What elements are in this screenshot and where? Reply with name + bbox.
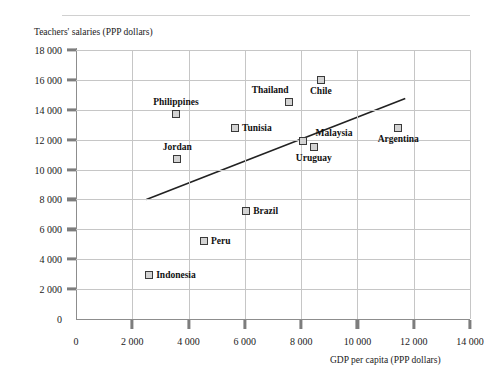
- data-point-marker[interactable]: [285, 98, 293, 106]
- gridline-horizontal: [76, 170, 470, 171]
- y-tick-label: 14 000: [35, 104, 63, 115]
- x-tick-label: 2 000: [121, 336, 144, 347]
- y-tick-label: 12 000: [35, 134, 63, 145]
- gridline-vertical: [245, 50, 246, 319]
- gridline-vertical: [470, 50, 471, 319]
- data-point-label: Jordan: [163, 142, 192, 152]
- x-tick-label: 0: [74, 336, 79, 347]
- gridline-horizontal: [76, 50, 470, 51]
- data-point-label: Thailand: [252, 85, 289, 95]
- y-tick-label: 10 000: [35, 164, 63, 175]
- data-point-label: Argentina: [378, 134, 419, 144]
- data-point-marker[interactable]: [173, 155, 181, 163]
- x-axis-title: GDP per capita (PPP dollars): [330, 355, 441, 365]
- gridline-horizontal: [76, 229, 470, 230]
- x-tick-label: 4 000: [177, 336, 200, 347]
- y-tick-label: 18 000: [35, 45, 63, 56]
- data-point-label: Tunisia: [242, 123, 272, 133]
- x-tick-label: 8 000: [290, 336, 313, 347]
- y-tick-mark: [67, 108, 76, 111]
- gridline-horizontal: [76, 110, 470, 111]
- y-tick-mark: [67, 78, 76, 81]
- x-tick-mark: [412, 320, 415, 329]
- data-point-label: Brazil: [253, 206, 278, 216]
- gridline-vertical: [357, 50, 358, 319]
- data-point-marker[interactable]: [394, 124, 402, 132]
- x-tick-label: 6 000: [234, 336, 257, 347]
- x-tick-mark: [131, 320, 134, 329]
- data-point-marker[interactable]: [172, 110, 180, 118]
- gridline-horizontal: [76, 259, 470, 260]
- y-tick-mark: [67, 288, 76, 291]
- y-tick-label: 6 000: [40, 224, 63, 235]
- x-tick-label: 10 000: [344, 336, 372, 347]
- data-point-label: Indonesia: [156, 270, 196, 280]
- y-tick-mark: [67, 48, 76, 51]
- data-point-label: Peru: [211, 236, 231, 246]
- top-caption: [150, 0, 390, 8]
- data-point-marker[interactable]: [299, 137, 307, 145]
- y-tick-label: 0: [57, 314, 62, 325]
- data-point-marker[interactable]: [145, 271, 153, 279]
- data-point-marker[interactable]: [231, 124, 239, 132]
- x-tick-mark: [356, 320, 359, 329]
- y-tick-label: 2 000: [40, 284, 63, 295]
- x-tick-mark: [468, 320, 471, 329]
- data-point-marker[interactable]: [200, 237, 208, 245]
- y-tick-mark: [67, 258, 76, 261]
- y-tick-mark: [67, 228, 76, 231]
- gridline-horizontal: [76, 80, 470, 81]
- data-point-label: Malaysia: [316, 128, 353, 138]
- gridline-vertical: [132, 50, 133, 319]
- data-point-label: Philippines: [153, 97, 198, 107]
- x-tick-label: 14 000: [456, 336, 484, 347]
- data-point-label: Uruguay: [296, 153, 332, 163]
- y-axis-title: Teachers' salaries (PPP dollars): [34, 27, 153, 37]
- gridline-vertical: [414, 50, 415, 319]
- y-tick-label: 16 000: [35, 74, 63, 85]
- gridline-horizontal: [76, 199, 470, 200]
- x-axis-line: [76, 319, 470, 320]
- data-point-marker[interactable]: [317, 76, 325, 84]
- header-divider: [62, 15, 470, 16]
- x-tick-mark: [187, 320, 190, 329]
- y-tick-mark: [67, 198, 76, 201]
- y-tick-mark: [67, 138, 76, 141]
- y-tick-label: 4 000: [40, 254, 63, 265]
- y-tick-mark: [67, 168, 76, 171]
- gridline-vertical: [301, 50, 302, 319]
- x-tick-mark: [243, 320, 246, 329]
- y-tick-label: 8 000: [40, 194, 63, 205]
- gridline-horizontal: [76, 289, 470, 290]
- x-tick-label: 12 000: [400, 336, 428, 347]
- data-point-marker[interactable]: [242, 207, 250, 215]
- data-point-marker[interactable]: [310, 143, 318, 151]
- data-point-label: Chile: [310, 86, 332, 96]
- x-tick-mark: [300, 320, 303, 329]
